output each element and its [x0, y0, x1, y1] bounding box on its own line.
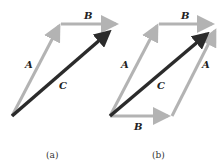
panel-b: A B B A C (b): [110, 10, 215, 160]
label-c: C: [157, 80, 165, 91]
label-a: A: [24, 59, 33, 70]
vector-c-arrow: [12, 32, 109, 116]
label-a-right: A: [201, 59, 210, 70]
label-b-top: B: [180, 10, 189, 21]
caption-a: (a): [46, 150, 58, 160]
vector-addition-diagram: A B C (a) A B B A C (b): [0, 0, 220, 166]
label-c: C: [59, 80, 67, 91]
label-b-bottom: B: [133, 121, 142, 132]
vector-a-arrow: [12, 26, 59, 116]
label-b: B: [83, 10, 92, 21]
label-a: A: [120, 59, 129, 70]
caption-b: (b): [152, 150, 165, 160]
panel-a: A B C (a): [12, 10, 116, 160]
vector-a-arrow: [110, 26, 157, 116]
